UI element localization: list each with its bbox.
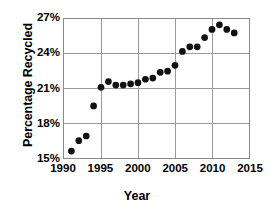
- data-point: [127, 81, 134, 88]
- data-point: [135, 79, 142, 86]
- x-axis-tick-label: 1995: [80, 163, 120, 175]
- data-point: [201, 34, 208, 41]
- data-point: [83, 133, 90, 140]
- y-axis-tick-label: 18%: [30, 118, 60, 130]
- y-axis-tick-label: 24%: [30, 47, 60, 59]
- data-point: [120, 82, 127, 89]
- data-point: [164, 68, 171, 75]
- data-point: [231, 30, 238, 37]
- recycling-scatter-chart: Percentage Recycled 15%18%21%24%27% 1990…: [0, 0, 274, 214]
- data-point: [142, 76, 149, 83]
- y-axis-tick-label: 27%: [30, 12, 60, 24]
- x-axis-title: Year: [0, 189, 274, 203]
- x-axis-tick-label: 2015: [230, 163, 270, 175]
- x-axis-tick-label: 1990: [43, 163, 83, 175]
- x-axis-tick-label: 2010: [193, 163, 233, 175]
- plot-area: [63, 18, 250, 159]
- data-point: [157, 69, 164, 76]
- y-axis-tick-label: 21%: [30, 83, 60, 95]
- data-points-layer: [64, 19, 249, 158]
- data-point: [75, 137, 82, 144]
- data-point: [209, 26, 216, 33]
- data-point: [179, 48, 186, 55]
- data-point: [98, 84, 105, 91]
- data-point: [194, 43, 201, 50]
- data-point: [223, 26, 230, 33]
- x-axis-tick-label: 2000: [118, 163, 158, 175]
- data-point: [90, 103, 97, 110]
- x-axis-tick-labels: 199019952000200520102015: [0, 163, 274, 183]
- data-point: [149, 75, 156, 82]
- data-point: [68, 148, 75, 155]
- x-axis-tick-label: 2005: [155, 163, 195, 175]
- data-point: [172, 62, 179, 69]
- data-point: [105, 78, 112, 85]
- data-point: [186, 43, 193, 50]
- data-point: [216, 21, 223, 28]
- data-point: [112, 82, 119, 89]
